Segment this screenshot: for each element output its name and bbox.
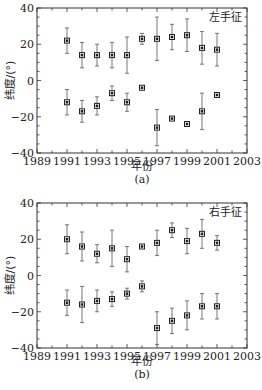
y-tick-label: −40 xyxy=(11,342,34,355)
series-north xyxy=(65,17,220,73)
panel-caption: (b) xyxy=(134,368,150,381)
y-tick-label: 40 xyxy=(20,2,34,15)
y-tick-label: 40 xyxy=(20,197,34,210)
x-tick-label: 2001 xyxy=(203,155,231,168)
y-tick-label: −20 xyxy=(11,306,34,319)
y-tick-label: 20 xyxy=(20,38,34,51)
x-tick-label: 1993 xyxy=(83,155,111,168)
x-tick-label: 1999 xyxy=(173,155,201,168)
x-tick-label: 2003 xyxy=(233,350,261,363)
x-tick-label: 1991 xyxy=(53,155,81,168)
series-north xyxy=(65,219,220,272)
panel-caption: (a) xyxy=(134,173,149,186)
y-tick-label: 0 xyxy=(27,75,34,88)
x-axis-label: 年份 xyxy=(131,354,153,368)
y-tick-label: 20 xyxy=(20,233,34,246)
x-tick-label: 1993 xyxy=(83,350,111,363)
series-south xyxy=(65,85,220,146)
chart-panel-b: 1989199119931995199719992001200340200−20… xyxy=(3,197,261,381)
x-axis-label: 年份 xyxy=(131,159,153,173)
plot-frame xyxy=(37,8,247,153)
y-tick-label: −20 xyxy=(11,111,34,124)
y-tick-label: −40 xyxy=(11,147,34,160)
y-axis-label: 纬度/(°) xyxy=(3,256,17,296)
panel-title: 右手征 xyxy=(209,205,242,219)
x-tick-label: 2003 xyxy=(233,155,261,168)
chart-panel-a: 1989199119931995199719992001200340200−20… xyxy=(3,2,261,186)
series-south xyxy=(65,281,220,344)
chart-figure: 1989199119931995199719992001200340200−20… xyxy=(0,0,262,390)
x-tick-label: 1991 xyxy=(53,350,81,363)
panel-title: 左手征 xyxy=(209,10,242,24)
x-tick-label: 2001 xyxy=(203,350,231,363)
y-tick-label: 0 xyxy=(27,270,34,283)
y-axis-label: 纬度/(°) xyxy=(3,61,17,101)
x-tick-label: 1999 xyxy=(173,350,201,363)
